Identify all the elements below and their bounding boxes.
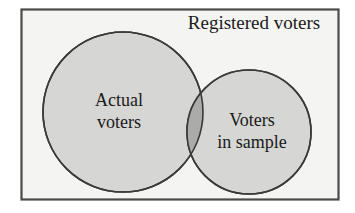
venn-diagram-canvas: Registered voters Actual voters Voters i… [0, 0, 355, 213]
set-label-actual-voters-line1: Actual [95, 90, 143, 110]
set-label-actual-voters-line2: voters [97, 112, 141, 132]
universe-title: Registered voters [188, 12, 320, 33]
set-label-voters-in-sample-line1: Voters [229, 110, 275, 130]
venn-diagram-figure: Registered voters Actual voters Voters i… [0, 0, 355, 213]
set-label-voters-in-sample-line2: in sample [217, 132, 287, 152]
